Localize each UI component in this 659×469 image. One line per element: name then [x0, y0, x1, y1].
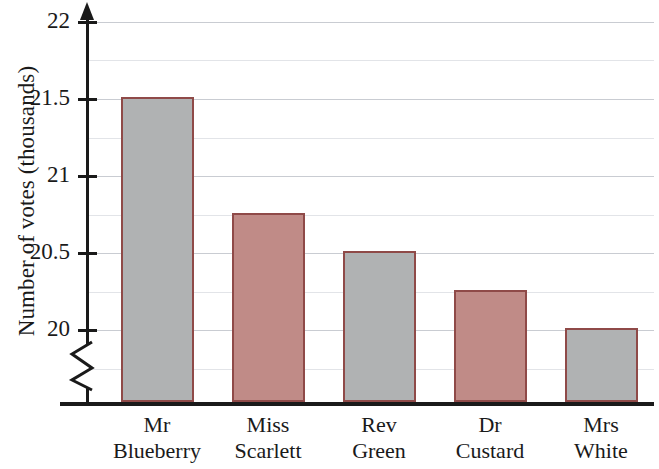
bar-rev-green[interactable] — [343, 251, 416, 402]
gridline-major-22 — [89, 22, 654, 23]
y-tick-label-22: 22 — [10, 8, 70, 34]
y-tick-label-21: 21 — [10, 162, 70, 188]
plot-area — [89, 10, 654, 402]
y-tick-mark-20 — [78, 329, 97, 332]
y-tick-mark-22 — [78, 21, 97, 24]
bar-miss-scarlett[interactable] — [232, 213, 305, 402]
y-tick-label-20: 20 — [10, 316, 70, 342]
y-tick-label-20-5: 20.5 — [10, 239, 70, 265]
y-tick-label-21-5: 21.5 — [10, 85, 70, 111]
x-label-line1: Dr — [478, 412, 501, 437]
y-tick-mark-21-5 — [78, 98, 97, 101]
x-label-mrs-white: Mrs White — [535, 412, 659, 464]
x-label-line2: White — [535, 438, 659, 464]
bar-dr-custard[interactable] — [454, 290, 527, 402]
bar-mr-blueberry[interactable] — [121, 97, 194, 402]
bar-chart: Number of votes (thousands) 22 21.5 21 2… — [0, 0, 659, 469]
x-axis-line — [60, 402, 654, 406]
y-tick-mark-21 — [78, 175, 97, 178]
x-label-line1: Rev — [361, 412, 396, 437]
x-label-line1: Mrs — [583, 412, 618, 437]
axis-break-icon — [66, 340, 96, 392]
x-label-line1: Mr — [144, 412, 171, 437]
y-axis-line — [86, 18, 89, 345]
x-label-line1: Miss — [247, 412, 290, 437]
bar-mrs-white[interactable] — [565, 328, 638, 402]
y-tick-mark-20-5 — [78, 252, 97, 255]
gridline-minor-21-75 — [89, 60, 654, 61]
